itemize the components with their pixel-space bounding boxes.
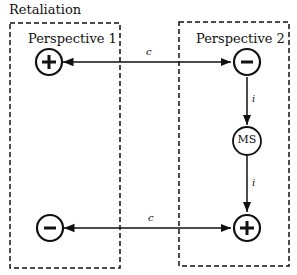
group-label-perspective-2: Perspective 2 xyxy=(196,31,285,46)
ms-node-label: MS xyxy=(233,133,261,146)
edge-label-c-top: c xyxy=(146,46,152,57)
edge-label-c-bottom: c xyxy=(148,212,154,223)
group-box-perspective-1 xyxy=(10,23,120,268)
node-p2-plus xyxy=(234,215,260,241)
node-p1-minus xyxy=(37,215,63,241)
edge-label-i-upper: i xyxy=(252,93,255,104)
group-label-perspective-1: Perspective 1 xyxy=(28,31,117,46)
node-p1-plus xyxy=(36,49,62,75)
edge-label-i-lower: i xyxy=(252,177,255,188)
node-p2-minus xyxy=(234,49,260,75)
